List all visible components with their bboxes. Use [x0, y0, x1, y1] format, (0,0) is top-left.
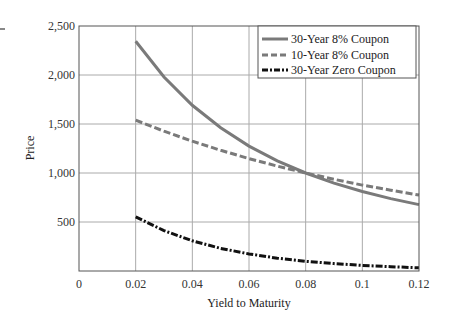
- legend-label-30yr-coupon: 30-Year 8% Coupon: [291, 32, 389, 46]
- x-tick-label: 0.12: [409, 277, 430, 291]
- x-tick-label: 0.06: [239, 277, 260, 291]
- y-axis-label: Price: [23, 136, 37, 161]
- x-tick-label: 0.04: [182, 277, 203, 291]
- y-tick-label: 500: [57, 215, 75, 229]
- y-tick-label: 1,000: [48, 166, 75, 180]
- y-tick-label: 1,500: [48, 117, 75, 131]
- x-axis-ticks: 00.020.040.060.080.10.12: [76, 277, 430, 291]
- x-tick-label: 0.08: [295, 277, 316, 291]
- price-yield-chart: 00.020.040.060.080.10.12 5001,0001,5002,…: [0, 0, 453, 322]
- series-line: [136, 217, 419, 268]
- series-line: [136, 120, 419, 195]
- y-axis-ticks: 5001,0001,5002,0002,500: [48, 19, 75, 229]
- legend: 30-Year 8% Coupon 10-Year 8% Coupon 30-Y…: [258, 26, 416, 78]
- legend-label-10yr-coupon: 10-Year 8% Coupon: [291, 48, 389, 62]
- x-tick-label: 0.02: [125, 277, 146, 291]
- x-tick-label: 0: [76, 277, 82, 291]
- y-tick-label: 2,000: [48, 68, 75, 82]
- x-axis-label: Yield to Maturity: [207, 296, 290, 310]
- x-tick-label: 0.1: [355, 277, 370, 291]
- y-tick-label: 2,500: [48, 19, 75, 33]
- legend-label-30yr-zero: 30-Year Zero Coupon: [291, 63, 396, 77]
